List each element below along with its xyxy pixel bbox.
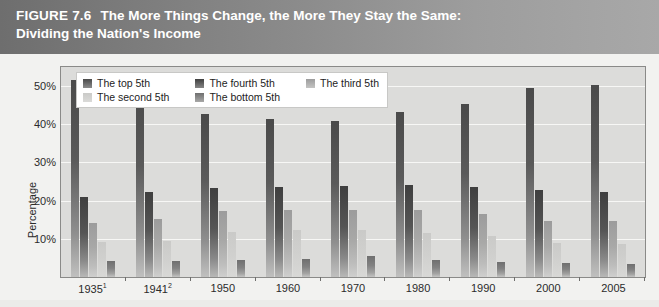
legend-item[interactable]: The bottom 5th (195, 91, 280, 103)
bar[interactable] (163, 241, 171, 277)
bar[interactable] (553, 243, 561, 277)
bar[interactable] (266, 119, 274, 277)
bar[interactable] (154, 219, 162, 277)
bar[interactable] (98, 242, 106, 277)
legend-spacer (306, 91, 379, 103)
bar[interactable] (432, 260, 440, 277)
bar-group (450, 67, 515, 277)
bar[interactable] (461, 104, 469, 277)
legend-label: The top 5th (97, 77, 150, 89)
y-axis-tick-label: 10% (10, 233, 56, 245)
figure-number-label: FIGURE 7.6 (16, 8, 92, 23)
legend-swatch-icon (306, 79, 315, 88)
legend-swatch-icon (83, 79, 92, 88)
bar[interactable] (562, 263, 570, 277)
x-axis-tick-mark (190, 277, 191, 281)
x-axis-tick-mark (125, 277, 126, 281)
figure-title-bar: FIGURE 7.6The More Things Change, the Mo… (0, 0, 659, 54)
bar[interactable] (107, 261, 115, 277)
legend-item[interactable]: The second 5th (83, 91, 169, 103)
bar[interactable] (600, 192, 608, 277)
bar[interactable] (526, 88, 534, 277)
bar[interactable] (136, 91, 144, 277)
bar[interactable] (237, 260, 245, 277)
bar[interactable] (423, 233, 431, 277)
figure-7-6: FIGURE 7.6The More Things Change, the Mo… (0, 0, 659, 307)
x-axis-tick-mark (579, 277, 580, 281)
x-axis-tick-mark (644, 277, 645, 281)
bar[interactable] (80, 197, 88, 277)
bar[interactable] (367, 256, 375, 277)
footnote-marker: 2 (168, 282, 172, 289)
x-axis-tick-labels: 19351194121950196019701980199020002005 (60, 282, 646, 295)
y-axis-tick-label: 20% (10, 195, 56, 207)
bar[interactable] (275, 187, 283, 277)
bar[interactable] (627, 264, 635, 277)
bar[interactable] (172, 261, 180, 277)
y-axis-tick-labels: 50%40%30%20%10% (10, 66, 56, 278)
bar[interactable] (210, 188, 218, 277)
bar[interactable] (497, 262, 505, 277)
x-axis-tick-mark (384, 277, 385, 281)
bar[interactable] (618, 244, 626, 277)
bar[interactable] (145, 192, 153, 277)
bar[interactable] (340, 186, 348, 277)
bar[interactable] (535, 190, 543, 277)
figure-title-text-2: Dividing the Nation's Income (16, 26, 201, 41)
x-axis-tick-mark (320, 277, 321, 281)
bar[interactable] (488, 236, 496, 277)
bar[interactable] (591, 85, 599, 277)
x-axis-tick-label: 1970 (320, 282, 385, 295)
y-axis-tick-label: 30% (10, 156, 56, 168)
bar[interactable] (405, 185, 413, 277)
x-axis-tick-label: 2005 (581, 282, 646, 295)
bar[interactable] (609, 221, 617, 277)
legend-swatch-icon (195, 93, 204, 102)
bar[interactable] (293, 230, 301, 277)
x-axis-tick-mark (449, 277, 450, 281)
bar[interactable] (544, 221, 552, 278)
bar-group (580, 67, 645, 277)
bar[interactable] (302, 259, 310, 277)
bar[interactable] (479, 214, 487, 277)
bar[interactable] (201, 114, 209, 277)
bar[interactable] (284, 210, 292, 277)
legend-item[interactable]: The third 5th (306, 77, 379, 89)
x-axis-tick-label: 1990 (451, 282, 516, 295)
chart-legend: The top 5thThe fourth 5thThe third 5thTh… (76, 72, 388, 108)
legend-item[interactable]: The fourth 5th (195, 77, 280, 89)
legend-label: The second 5th (97, 91, 169, 103)
bar[interactable] (349, 210, 357, 277)
x-axis-tick-mark (514, 277, 515, 281)
figure-bottom-strip (0, 300, 659, 307)
figure-title-line-2: Dividing the Nation's Income (16, 25, 647, 43)
y-axis-tick-label: 40% (10, 118, 56, 130)
footnote-marker: 1 (103, 282, 107, 289)
bar[interactable] (219, 211, 227, 277)
legend-label: The fourth 5th (209, 77, 274, 89)
figure-title-text-1: The More Things Change, the More They St… (101, 8, 462, 23)
x-axis-tick-label: 2000 (516, 282, 581, 295)
figure-title-line-1: FIGURE 7.6The More Things Change, the Mo… (16, 7, 647, 25)
y-axis-tick-label: 50% (10, 80, 56, 92)
x-axis-tick-label: 1950 (190, 282, 255, 295)
x-axis-tick-label: 1960 (255, 282, 320, 295)
bar[interactable] (396, 112, 404, 277)
bar[interactable] (358, 230, 366, 277)
bar-group (385, 67, 450, 277)
figure-body: Percentage 50%40%30%20%10% 1935119412195… (0, 54, 659, 307)
legend-swatch-icon (195, 79, 204, 88)
bar[interactable] (71, 80, 79, 277)
x-axis-tick-label: 19412 (125, 282, 190, 295)
x-axis-tick-label: 1980 (386, 282, 451, 295)
bar[interactable] (470, 187, 478, 277)
x-axis-tick-label: 19351 (60, 282, 125, 295)
legend-label: The third 5th (320, 77, 379, 89)
bar[interactable] (331, 121, 339, 277)
legend-swatch-icon (83, 93, 92, 102)
legend-item[interactable]: The top 5th (83, 77, 169, 89)
bar[interactable] (89, 223, 97, 277)
legend-label: The bottom 5th (209, 91, 280, 103)
bar[interactable] (228, 232, 236, 277)
bar[interactable] (414, 210, 422, 277)
